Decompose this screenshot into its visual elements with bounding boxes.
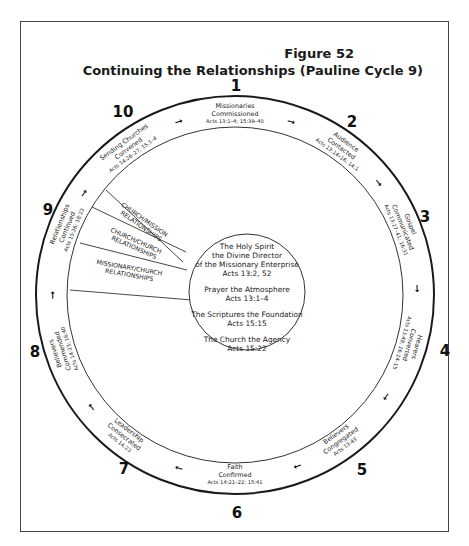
step-number-7: 7 bbox=[119, 460, 129, 478]
step-1-line2: Commissioned bbox=[212, 110, 259, 118]
center-spirit-l2: the Divine Director bbox=[212, 251, 283, 260]
arrow-icon: ➞ bbox=[47, 291, 58, 299]
step-number-6: 6 bbox=[232, 504, 242, 522]
arrow-icon: ➞ bbox=[286, 115, 297, 128]
arrow-icon: ➞ bbox=[372, 176, 386, 189]
center-scriptures-ref: Acts 15:15 bbox=[227, 319, 267, 328]
arrow-icon: ➞ bbox=[173, 115, 184, 128]
svg-text:Acts 14:21–22; 15:41: Acts 14:21–22; 15:41 bbox=[207, 479, 262, 485]
step-1-ref: Acts 13:1–4; 15:39–40 bbox=[206, 118, 264, 124]
svg-text:Faith: Faith bbox=[227, 463, 242, 471]
svg-text:Confirmed: Confirmed bbox=[218, 471, 251, 479]
arrow-icon: ➞ bbox=[292, 460, 304, 473]
step-1: Missionaries Commissioned Acts 13:1–4; 1… bbox=[206, 102, 264, 124]
arrow-icon: ➞ bbox=[379, 390, 393, 403]
relationship-labels: CHURCH/MISSION RELATIONSHIPS CHURCH/CHUR… bbox=[95, 201, 171, 284]
arrow-icon: ➞ bbox=[77, 186, 91, 199]
step-1-line1: Missionaries bbox=[215, 102, 255, 110]
center-spirit-l3: of the Missionary Enterprise bbox=[195, 260, 299, 269]
center-church-ref: Acts 15:22 bbox=[227, 344, 266, 353]
arrow-icon: ➞ bbox=[412, 284, 423, 293]
step-number-3: 3 bbox=[420, 208, 430, 226]
step-number-10: 10 bbox=[113, 103, 134, 121]
step-number-8: 8 bbox=[30, 343, 40, 361]
center-church: The Church the Agency bbox=[203, 335, 291, 344]
arrow-icon: ➞ bbox=[173, 462, 184, 475]
step-2: Audience Contacted Acts 13:14–16; 14:1 bbox=[315, 124, 370, 172]
step-5: Believers Congregated Acts 13:43 bbox=[317, 419, 363, 461]
step-3: Gospel Communicated Acts 13:17–41; 16:31 bbox=[383, 197, 424, 256]
step-number-9: 9 bbox=[43, 201, 53, 219]
step-number-5: 5 bbox=[357, 461, 367, 479]
center-prayer-ref: Acts 13:1–4 bbox=[225, 294, 268, 303]
center-prayer: Prayer the Atmosphere bbox=[204, 285, 290, 294]
step-number-1: 1 bbox=[231, 77, 241, 95]
cycle-diagram: CHURCH/MISSION RELATIONSHIPS CHURCH/CHUR… bbox=[0, 0, 469, 546]
step-number-4: 4 bbox=[440, 342, 450, 360]
step-6: Faith Confirmed Acts 14:21–22; 15:41 bbox=[207, 463, 262, 485]
center-spirit-l1: The Holy Spirit bbox=[219, 242, 274, 251]
step-7: Leadership Consecrated Acts 14:23 bbox=[102, 415, 147, 457]
step-4: Hearers Converted Acts 13:48; 16:14–15 bbox=[392, 316, 428, 375]
step-number-2: 2 bbox=[347, 113, 357, 131]
center-scriptures: The Scriptures the Foundation bbox=[190, 310, 303, 319]
arrow-icon: ➞ bbox=[84, 401, 98, 414]
center-spirit-ref: Acts 13:2, 52 bbox=[223, 269, 272, 278]
